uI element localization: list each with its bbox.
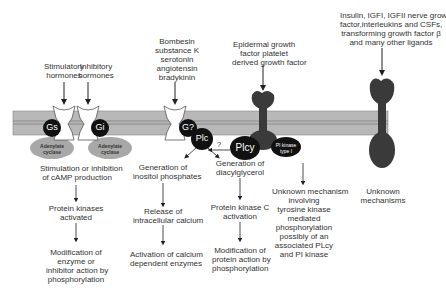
arrow-plc-inositol bbox=[186, 148, 196, 157]
ligand-bombesin: Bombesinsubstance Kserotoninangiotensinb… bbox=[152, 37, 202, 82]
unknown-mechanisms: Unknownmechanisms bbox=[360, 187, 406, 205]
inositol-step-1: Generation ofinositol phosphates bbox=[133, 163, 193, 181]
camp-step-3: Modification ofenzyme orinhibitor action… bbox=[46, 248, 106, 284]
ligand-insulin: Insulin, IGFI, IGFII nerve growthfactor,… bbox=[340, 11, 442, 47]
camp-step-2: Protein kinasesactivated bbox=[46, 204, 106, 222]
ligand-egf: Epidermal growthfactor plateletderived g… bbox=[232, 40, 296, 67]
dag-step-1: Generation ofdiacylglycerol bbox=[214, 159, 266, 177]
ligand-inhibitory: Inhibitoryhormones bbox=[76, 62, 116, 80]
gs-label: Gs bbox=[44, 123, 60, 132]
adenylate-left-label: Adenylatecyclase bbox=[34, 143, 70, 155]
question-mark: ? bbox=[214, 140, 224, 149]
gi-label: Gi bbox=[92, 123, 108, 132]
inositol-step-3: Activation of calciumdependent enzymes bbox=[130, 250, 196, 268]
camp-step-1: Stimulation or inhibitionof cAMP product… bbox=[40, 164, 114, 182]
arrow-plc-dag bbox=[208, 148, 218, 157]
dag-step-3: Modification ofprotein action byphosphor… bbox=[212, 246, 268, 273]
adenylate-right-label: Adenylatecyclase bbox=[92, 143, 128, 155]
pi-kinase-label: PI kinasetype I bbox=[274, 142, 298, 154]
plcy-label: Plcy bbox=[232, 143, 258, 152]
inositol-step-2: Release ofintracellular calcium bbox=[133, 207, 193, 225]
tyrosine-step-1: Unknown mechanisminvolvingtyrosine kinas… bbox=[272, 187, 336, 259]
plc-label: Plc bbox=[193, 134, 211, 143]
gq-label: G? bbox=[180, 123, 196, 132]
dag-step-2: Protein kinase Cactivation bbox=[210, 203, 270, 221]
